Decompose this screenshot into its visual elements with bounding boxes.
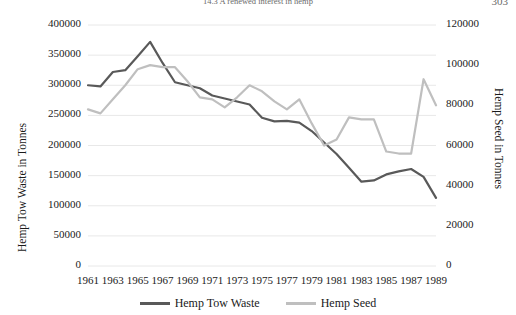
legend-item[interactable]: Hemp Tow Waste	[140, 296, 260, 311]
legend-color-swatch	[140, 302, 170, 305]
x-axis-tick-label: 1989	[416, 274, 456, 286]
y-axis-left-tick-label: 400000	[48, 17, 81, 29]
y-axis-right-tick-label: 120000	[446, 17, 479, 29]
series-line-hemp-seed	[88, 65, 436, 153]
y-axis-right-title: Hemp Seed in Tonnes	[493, 88, 505, 189]
y-axis-right-tick-label: 0	[446, 258, 452, 270]
hemp-production-line-chart: 0500001000001500002000002500003000003500…	[0, 0, 516, 315]
y-axis-right-tick-label: 60000	[446, 138, 474, 150]
legend-item-label: Hemp Seed	[321, 296, 377, 311]
series-lines	[88, 42, 436, 198]
y-axis-left-tick-label: 150000	[48, 168, 81, 180]
y-axis-left-tick-label: 250000	[48, 107, 81, 119]
chart-legend: Hemp Tow WasteHemp Seed	[0, 294, 516, 312]
legend-color-swatch	[286, 302, 316, 305]
y-axis-left-tick-label: 100000	[48, 198, 81, 210]
y-axis-right-tick-label: 40000	[446, 178, 474, 190]
y-axis-right-tick-label: 20000	[446, 218, 474, 230]
series-line-hemp-tow-waste	[88, 42, 436, 198]
y-axis-right-tick-label: 80000	[446, 97, 474, 109]
y-axis-left-title: Hemp Tow Waste in Tonnes	[16, 123, 28, 252]
y-axis-left-tick-label: 50000	[54, 228, 82, 240]
y-axis-left-tick-label: 200000	[48, 138, 81, 150]
legend-item-label: Hemp Tow Waste	[175, 296, 260, 311]
y-axis-right-tick-label: 100000	[446, 57, 479, 69]
y-axis-left-tick-label: 0	[76, 258, 82, 270]
y-axis-left-tick-label: 350000	[48, 47, 81, 59]
legend-item[interactable]: Hemp Seed	[286, 296, 377, 311]
y-axis-left-tick-label: 300000	[48, 77, 81, 89]
